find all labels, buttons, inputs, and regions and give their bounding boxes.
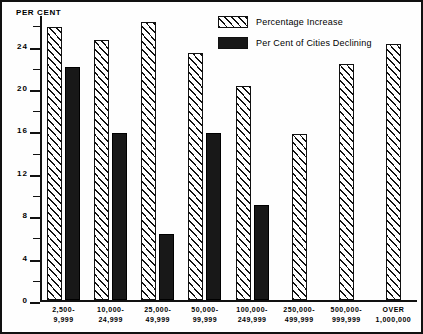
category-label-line1: 250,000- bbox=[276, 305, 323, 315]
y-tick-major bbox=[30, 302, 40, 304]
x-axis-category-label: 250,000-499,999 bbox=[276, 305, 323, 325]
bar-percentage-increase bbox=[47, 27, 62, 300]
category-label-line2: 99,999 bbox=[181, 315, 228, 325]
y-tick-minor bbox=[33, 238, 40, 239]
bar-group bbox=[134, 16, 181, 300]
x-axis-category-label: 10,000-24,999 bbox=[87, 305, 134, 325]
y-tick-major bbox=[30, 132, 40, 134]
bar-group bbox=[229, 16, 276, 300]
y-tick-major bbox=[30, 175, 40, 177]
x-axis-category-label: 100,000-249,999 bbox=[229, 305, 276, 325]
bar-percentage-increase bbox=[386, 44, 401, 300]
category-label-line2: 249,999 bbox=[229, 315, 276, 325]
bar-percentage-increase bbox=[94, 40, 109, 300]
bar-percentage-increase bbox=[188, 53, 203, 300]
bar-cities-declining bbox=[159, 234, 174, 300]
bar-group bbox=[181, 16, 228, 300]
x-axis-category-label: 25,000-49,999 bbox=[134, 305, 181, 325]
bar-cities-declining bbox=[112, 133, 127, 300]
bar-percentage-increase bbox=[236, 86, 251, 300]
bar-cities-declining bbox=[206, 133, 221, 300]
category-label-line1: 100,000- bbox=[229, 305, 276, 315]
x-axis-category-labels: 2,500-9,99910,000-24,99925,000-49,99950,… bbox=[40, 305, 417, 333]
y-tick-label: 0 bbox=[23, 296, 28, 305]
y-tick-label: 24 bbox=[17, 42, 28, 51]
x-axis-category-label: 500,000-999,999 bbox=[323, 305, 370, 325]
category-label-line1: 2,500- bbox=[40, 305, 87, 315]
y-tick-major bbox=[30, 90, 40, 92]
plot-area: 04812162024 bbox=[40, 16, 417, 302]
bar-group bbox=[40, 16, 87, 300]
x-axis-line bbox=[40, 300, 417, 302]
y-tick-minor bbox=[33, 69, 40, 70]
bar-percentage-increase bbox=[141, 22, 156, 300]
category-label-line2: 1,000,000 bbox=[370, 315, 417, 325]
y-tick-minor bbox=[33, 281, 40, 282]
y-tick-major bbox=[30, 260, 40, 262]
y-tick-minor bbox=[33, 154, 40, 155]
category-label-line1: 500,000- bbox=[323, 305, 370, 315]
y-tick-label: 8 bbox=[23, 211, 28, 220]
y-tick-label: 4 bbox=[23, 254, 28, 263]
y-tick-label: 12 bbox=[17, 169, 28, 178]
category-label-line2: 49,999 bbox=[134, 315, 181, 325]
category-label-line1: 50,000- bbox=[181, 305, 228, 315]
y-tick-label: 20 bbox=[17, 84, 28, 93]
bar-series-container bbox=[40, 16, 417, 300]
bar-group bbox=[323, 16, 370, 300]
bar-cities-declining bbox=[254, 205, 269, 300]
x-axis-category-label: 2,500-9,999 bbox=[40, 305, 87, 325]
category-label-line1: OVER bbox=[370, 305, 417, 315]
y-tick-major bbox=[30, 217, 40, 219]
bar-percentage-increase bbox=[292, 134, 307, 300]
bar-group bbox=[370, 16, 417, 300]
bar-group bbox=[276, 16, 323, 300]
category-label-line2: 999,999 bbox=[323, 315, 370, 325]
bar-cities-declining bbox=[65, 67, 80, 300]
x-axis-category-label: OVER1,000,000 bbox=[370, 305, 417, 325]
category-label-line1: 10,000- bbox=[87, 305, 134, 315]
y-tick-minor bbox=[33, 111, 40, 112]
x-axis-category-label: 50,000-99,999 bbox=[181, 305, 228, 325]
category-label-line2: 499,999 bbox=[276, 315, 323, 325]
y-tick-major bbox=[30, 48, 40, 50]
y-tick-minor bbox=[33, 26, 40, 27]
category-label-line2: 24,999 bbox=[87, 315, 134, 325]
bar-group bbox=[87, 16, 134, 300]
y-tick-label: 16 bbox=[17, 126, 28, 135]
category-label-line1: 25,000- bbox=[134, 305, 181, 315]
bar-percentage-increase bbox=[339, 64, 354, 300]
category-label-line2: 9,999 bbox=[40, 315, 87, 325]
chart-figure: PER CENT Percentage Increase Per Cent of… bbox=[0, 0, 423, 334]
y-tick-minor bbox=[33, 196, 40, 197]
